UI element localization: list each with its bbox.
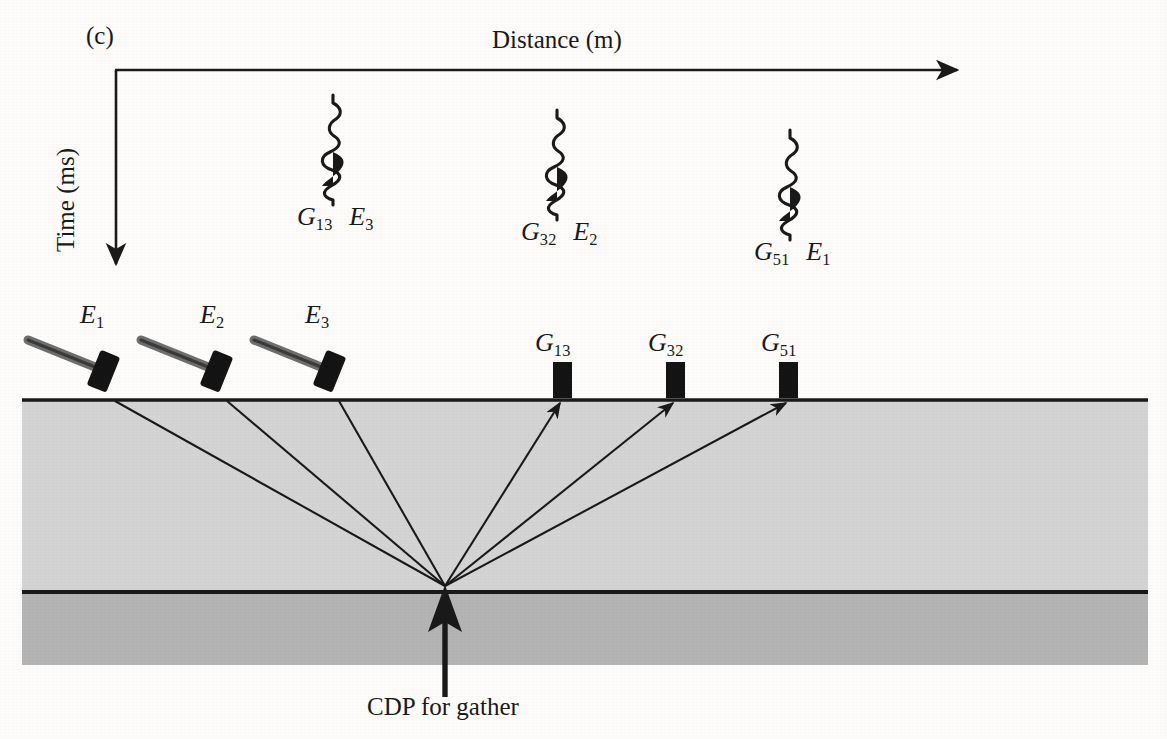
layer-lower [22,594,1148,665]
layer-upper [22,400,1148,592]
source-label-E3: E3 [305,300,329,333]
panel-identifier: (c) [86,22,114,50]
receiver-label-G32: G32 [648,328,684,361]
geophone-G32 [666,362,685,398]
subsurface-layers [22,400,1148,665]
trace-2-source-symbol: E2 [573,217,597,246]
trace-label-1: G13 E3 [297,202,374,235]
trace-1-geophone-symbol: G13 [297,202,339,231]
geophone-G51 [779,362,798,398]
trace-2-geophone-symbol: G32 [521,217,563,246]
figure-canvas [0,0,1167,739]
source-label-E1: E1 [80,300,104,333]
trace-3-geophone-symbol: G51 [754,237,796,266]
wiggle-trace-2 [546,110,568,220]
y-axis-title: Time (ms) [52,148,80,252]
receiver-label-G51: G51 [761,328,797,361]
wiggle-line-1 [322,95,340,205]
trace-label-2: G32 E2 [521,217,598,250]
seismic-cdp-figure: (c) Distance (m) Time (ms) G13 E3 G32 E2… [0,0,1167,739]
wiggle-trace-3 [779,130,801,240]
geophone-G13 [553,362,572,398]
geophone-receivers [553,362,798,398]
wiggle-line-2 [546,110,564,220]
source-label-E2: E2 [200,300,224,333]
sledgehammer-E2 [141,340,233,393]
cdp-caption: CDP for gather [367,693,519,721]
receiver-label-G13: G13 [535,328,571,361]
sledgehammer-E1 [28,340,120,393]
trace-3-source-symbol: E1 [806,237,830,266]
sledgehammer-E3 [254,340,346,393]
x-axis-title: Distance (m) [492,26,622,54]
trace-label-3: G51 E1 [754,237,831,270]
trace-1-source-symbol: E3 [349,202,373,231]
sledgehammer-sources [28,340,346,393]
wiggle-trace-1 [322,95,344,205]
wiggle-line-3 [779,130,797,240]
